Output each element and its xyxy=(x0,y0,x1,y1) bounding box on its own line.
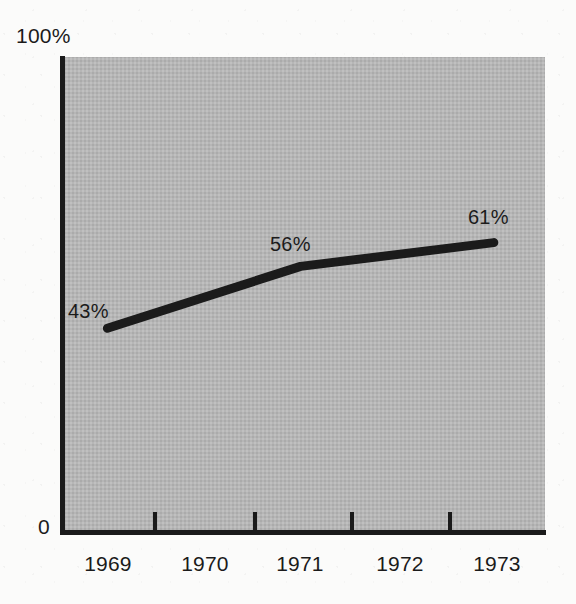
x-tick-label-1970: 1970 xyxy=(160,552,250,576)
x-tick-label-1973: 1973 xyxy=(452,552,542,576)
chart-figure: 100% 0 43% 56% 61% 1969 1970 1971 1972 1… xyxy=(0,0,576,604)
x-tick-label-1969: 1969 xyxy=(63,552,153,576)
y-axis-line xyxy=(60,56,65,535)
data-label-1971: 56% xyxy=(270,233,311,256)
plot-area-background xyxy=(62,57,545,533)
data-label-1969: 43% xyxy=(68,300,109,323)
x-axis-line xyxy=(60,530,546,535)
x-tick-label-1971: 1971 xyxy=(255,552,345,576)
y-axis-min-label: 0 xyxy=(38,515,50,539)
x-tick-mark xyxy=(153,512,157,532)
x-tick-mark xyxy=(350,512,354,532)
x-tick-label-1972: 1972 xyxy=(355,552,445,576)
y-axis-max-label: 100% xyxy=(16,24,71,48)
x-tick-mark xyxy=(253,512,257,532)
x-tick-mark xyxy=(448,512,452,532)
data-label-1973: 61% xyxy=(468,206,509,229)
